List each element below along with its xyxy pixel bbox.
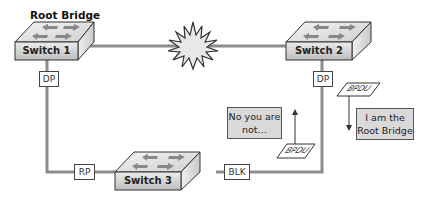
root-bridge-label: Root Bridge [30, 9, 100, 21]
port-switch2-dp: DP [313, 71, 333, 87]
port-switch3-blk: BLK [224, 164, 250, 180]
switch-1-label: Switch 1 [15, 45, 78, 56]
reply-line1: No you are [229, 110, 281, 123]
reply-note: No you are not… [227, 107, 282, 139]
bpdu-up-label: BPDU [280, 146, 313, 155]
root-claim-line1: I am the [365, 111, 405, 124]
switch-2-label: Switch 2 [286, 45, 352, 56]
switch-3-label: Switch 3 [115, 175, 181, 186]
reply-line2: not… [242, 123, 267, 136]
root-claim-line2: Root Bridge [357, 124, 413, 137]
root-claim-note: I am the Root Bridge [356, 108, 414, 140]
port-switch3-rp: RP [74, 164, 95, 180]
port-switch1-dp: DP [39, 71, 59, 87]
topology-canvas [0, 0, 434, 203]
bpdu-down-label: BPDU [340, 84, 377, 93]
